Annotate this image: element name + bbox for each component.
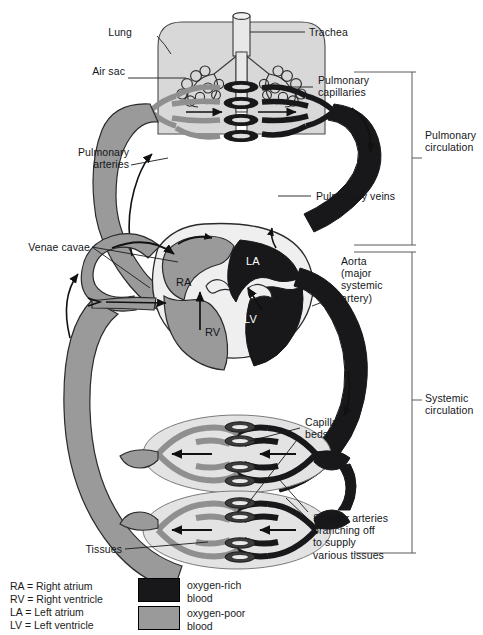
legend-abbrev-rv: RV = Right ventricle <box>10 593 103 606</box>
legend-abbrev-lv: LV = Left ventricle <box>10 619 94 632</box>
label-air-sac: Air sac <box>60 65 125 77</box>
label-chamber-rv: RV <box>205 326 220 338</box>
flow-arrow-vc-in <box>106 302 166 303</box>
label-smaller-arteries: Smaller arteries branching off to supply… <box>313 512 388 561</box>
label-pulmonary-arteries: Pulmonary arteries <box>47 146 129 170</box>
legend-swatch-oxygen-poor <box>138 606 180 630</box>
label-chamber-lv: LV <box>244 313 257 325</box>
bracket-systemic <box>412 252 422 553</box>
leader-pulmonary-arteries <box>131 158 168 165</box>
vein-return-connectors <box>120 450 158 531</box>
legend-abbrev-ra: RA = Right atrium <box>10 580 93 593</box>
heart-group <box>152 224 313 371</box>
systemic-capillary-bed-upper <box>143 415 331 493</box>
label-aorta: Aorta (major systemic artery) <box>341 255 383 304</box>
legend-abbrev-la: LA = Left atrium <box>10 606 84 619</box>
legend-label-oxygen-rich: oxygen-rich blood <box>187 579 241 605</box>
label-chamber-la: LA <box>246 255 260 267</box>
trachea-top <box>233 13 250 20</box>
circulatory-diagram-svg <box>0 0 483 635</box>
label-tissues: Tissues <box>62 543 122 555</box>
label-pulmonary-veins: Pulmonary veins <box>316 190 395 202</box>
bracket-pulmonary <box>412 72 422 245</box>
trachea-tube <box>233 16 250 56</box>
label-trachea: Trachea <box>309 26 348 38</box>
vena-cava-junction <box>92 297 156 310</box>
label-lung: Lung <box>88 26 132 38</box>
legend-swatch-oxygen-rich <box>138 578 180 602</box>
diagram-canvas: Lung Trachea Air sac Pulmonary capillari… <box>0 0 483 635</box>
systemic-capillary-bed-lower <box>143 491 331 569</box>
label-bracket-systemic: Systemic circulation <box>425 392 473 416</box>
label-pulmonary-capillaries: Pulmonary capillaries <box>318 74 369 98</box>
label-chamber-ra: RA <box>176 276 191 288</box>
label-capillary-beds: Capillary beds <box>305 416 347 440</box>
label-venae-cavae: Venae cavae <box>10 241 90 253</box>
label-bracket-pulmonary: Pulmonary circulation <box>425 129 476 153</box>
legend-label-oxygen-poor: oxygen-poor blood <box>187 607 245 633</box>
